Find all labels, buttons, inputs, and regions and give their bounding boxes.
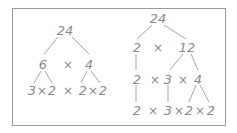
branch-line bbox=[137, 25, 152, 39]
times-sign: × bbox=[148, 104, 158, 118]
branch-line bbox=[164, 25, 186, 39]
times-sign: × bbox=[178, 73, 188, 87]
left-root-node: 24 bbox=[57, 23, 74, 38]
right-l2-factor-4: 4 bbox=[194, 72, 202, 87]
times-sign: × bbox=[88, 84, 98, 98]
branch-line bbox=[72, 37, 89, 54]
branch-line bbox=[81, 71, 87, 83]
times-sign: × bbox=[37, 84, 47, 98]
branch-line bbox=[200, 85, 209, 102]
times-sign: × bbox=[150, 73, 160, 87]
times-sign: × bbox=[63, 58, 73, 72]
right-l3-factor-2: 2 bbox=[207, 103, 215, 118]
left-l2-factor-2: 2 bbox=[48, 83, 56, 98]
branch-line bbox=[34, 71, 41, 83]
right-l1-factor-2: 2 bbox=[133, 40, 141, 55]
branch-line bbox=[170, 54, 183, 70]
branch-line bbox=[189, 85, 196, 102]
left-factor-tree: 24 6 × 4 3 × 2 × 2 × 2 bbox=[28, 23, 107, 98]
times-sign: × bbox=[63, 84, 73, 98]
right-l2-factor-2: 2 bbox=[133, 72, 141, 87]
branch-line bbox=[191, 54, 198, 70]
left-l1-factor-6: 6 bbox=[39, 57, 47, 72]
branch-line bbox=[91, 71, 100, 83]
factor-trees-diagram: 24 6 × 4 3 × 2 × 2 × 2 24 2 × 12 2 × 3 ×… bbox=[0, 0, 237, 133]
left-l2-factor-3: 3 bbox=[28, 83, 36, 98]
left-l2-factor-2: 2 bbox=[99, 83, 107, 98]
branch-line bbox=[44, 37, 58, 54]
times-sign: × bbox=[174, 104, 184, 118]
right-l3-factor-3: 3 bbox=[164, 103, 172, 118]
right-l3-factor-2: 2 bbox=[133, 103, 141, 118]
right-l1-factor-12: 12 bbox=[179, 40, 196, 55]
right-root-node: 24 bbox=[150, 11, 167, 26]
times-sign: × bbox=[195, 104, 205, 118]
branch-line bbox=[45, 71, 52, 83]
times-sign: × bbox=[153, 41, 163, 55]
right-factor-tree: 24 2 × 12 2 × 3 × 4 2 × 3 × 2 × 2 bbox=[133, 11, 215, 118]
right-l2-factor-3: 3 bbox=[164, 72, 172, 87]
left-l2-factor-2: 2 bbox=[79, 83, 87, 98]
right-l3-factor-2: 2 bbox=[185, 103, 193, 118]
left-l1-factor-4: 4 bbox=[85, 57, 93, 72]
